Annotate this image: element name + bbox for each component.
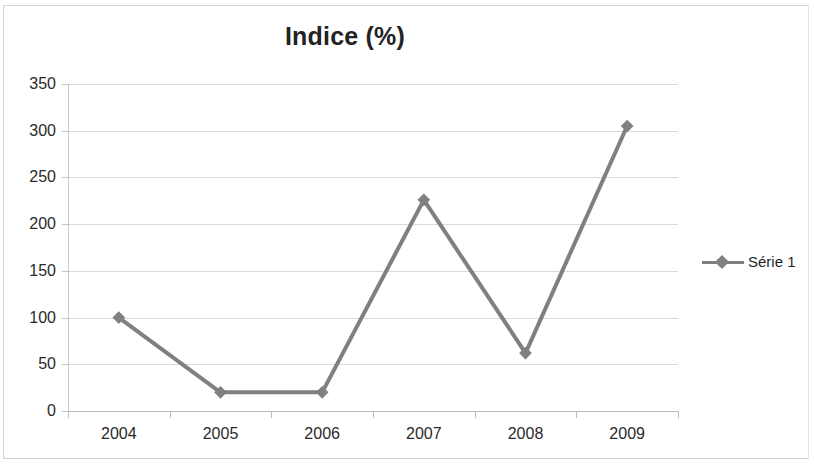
series-line	[119, 126, 627, 392]
legend-item-label: Série 1	[748, 253, 796, 270]
data-point-marker	[621, 120, 634, 133]
series-plot	[0, 0, 814, 469]
chart-screenshot: Indice (%) 050100150200250300350 2004200…	[0, 0, 814, 469]
chart-legend: Série 1	[702, 253, 796, 270]
diamond-marker-icon	[702, 256, 744, 268]
